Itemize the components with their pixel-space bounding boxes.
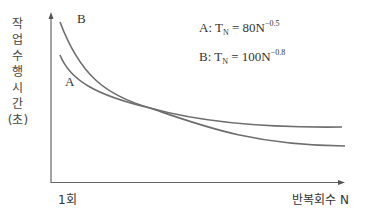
y-axis-char: 업 xyxy=(10,32,24,48)
legend-a-eq: = 80N xyxy=(229,20,265,35)
curve-a-label: A xyxy=(65,74,74,90)
y-axis-char: 작 xyxy=(10,16,24,32)
x-axis-label: 반복회수 N xyxy=(292,190,349,207)
legend-b-prefix: B: T xyxy=(199,49,222,64)
y-axis-char: 행 xyxy=(10,64,24,80)
y-axis-arrow-icon xyxy=(49,12,54,19)
legend: A: TN = 80N−0.5 B: TN = 100N−0.8 xyxy=(199,14,285,72)
legend-item-b: B: TN = 100N−0.8 xyxy=(199,43,285,72)
chart-canvas xyxy=(0,0,369,214)
x-tick-label: 1회 xyxy=(58,190,77,207)
y-axis-unit: (초) xyxy=(6,112,30,128)
legend-a-prefix: A: T xyxy=(199,20,223,35)
legend-item-a: A: TN = 80N−0.5 xyxy=(199,14,285,43)
legend-b-exp: −0.8 xyxy=(271,48,286,57)
x-axis-arrow-icon xyxy=(338,180,345,185)
curve-b-label: B xyxy=(77,11,86,27)
y-axis-label: 작 업 수 행 시 간 (초) xyxy=(10,16,24,128)
y-axis-char: 시 xyxy=(10,80,24,96)
legend-b-eq: = 100N xyxy=(228,49,271,64)
y-axis-char: 수 xyxy=(10,48,24,64)
legend-a-exp: −0.5 xyxy=(265,19,280,28)
y-axis-char: 간 xyxy=(10,96,24,112)
